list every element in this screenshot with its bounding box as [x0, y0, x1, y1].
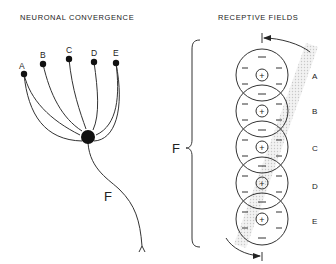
output-axon-f — [88, 143, 142, 246]
brace — [186, 40, 200, 247]
input-label-c: C — [66, 45, 72, 55]
field-label-e: E — [312, 217, 317, 226]
output-label-f: F — [104, 189, 112, 204]
combined-field-label-f: F — [172, 141, 180, 156]
field-label-b: B — [312, 107, 317, 116]
svg-text:+: + — [259, 107, 264, 117]
field-label-d: D — [312, 182, 318, 191]
field-labels: A B C D E — [312, 72, 318, 226]
input-fiber-d — [93, 62, 98, 130]
stimulus-bar — [234, 43, 318, 248]
svg-text:+: + — [259, 143, 264, 153]
input-fiber-a — [24, 74, 80, 135]
input-label-b: B — [40, 50, 46, 60]
field-label-a: A — [312, 72, 318, 81]
soma — [81, 130, 95, 144]
svg-text:+: + — [259, 215, 264, 225]
field-label-c: C — [312, 144, 318, 153]
input-label-d: D — [91, 48, 97, 58]
input-label-e: E — [113, 48, 119, 58]
svg-text:+: + — [259, 179, 264, 189]
convergence-diagram — [24, 59, 145, 252]
diagram-canvas: A B C D E F + + + + + A B C — [0, 0, 336, 264]
svg-text:+: + — [259, 71, 264, 81]
input-label-a: A — [19, 61, 25, 71]
input-fiber-c — [69, 59, 86, 129]
